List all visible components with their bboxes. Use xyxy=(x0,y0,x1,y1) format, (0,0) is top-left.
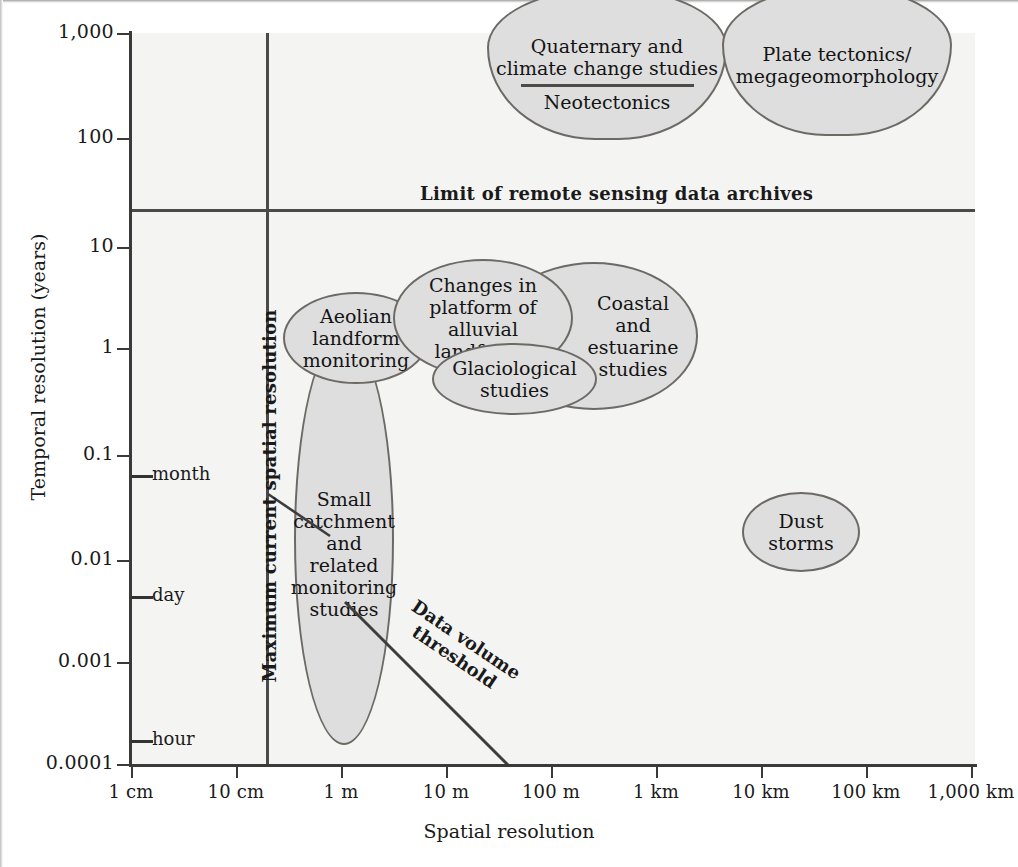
region-quaternary-divider xyxy=(521,84,694,86)
y-tick-6 xyxy=(117,662,130,664)
region-glaciological-label: Glaciological studies xyxy=(448,357,581,401)
x-tick-label-5: 1 km xyxy=(633,781,679,802)
y-tick-4 xyxy=(117,455,130,457)
scan-edge-left xyxy=(0,0,3,867)
y-axis-line xyxy=(129,31,132,767)
x-tick-1 xyxy=(236,765,238,778)
region-coastal-line2: and xyxy=(588,314,679,336)
x-tick-0 xyxy=(131,765,133,778)
region-dust-storms-line2: storms xyxy=(768,532,834,554)
region-dust-storms: Dust storms xyxy=(742,492,860,572)
x-tick-5 xyxy=(656,765,658,778)
region-aeolian-line3: monitoring xyxy=(303,349,409,371)
inner-tick-hour xyxy=(131,740,153,743)
region-alluvial-line1: Changes in xyxy=(399,274,567,296)
region-small-catchment-label: Small catchment and related monitoring s… xyxy=(287,488,401,620)
max-current-spatial-resolution-label: Maximum current spatial resolution xyxy=(259,313,280,683)
y-axis-title: Temporal resolution (years) xyxy=(27,207,49,527)
region-small-catchment-line4: monitoring xyxy=(291,576,397,598)
region-aeolian-line2: landform xyxy=(303,327,409,349)
inner-tick-month xyxy=(131,475,153,478)
region-coastal-line1: Coastal xyxy=(588,292,679,314)
inner-label-hour: hour xyxy=(152,728,195,749)
x-tick-label-3: 10 m xyxy=(423,781,470,802)
x-tick-label-0: 1 cm xyxy=(108,781,153,802)
x-tick-label-6: 10 km xyxy=(732,781,790,802)
region-quaternary-line2: climate change studies xyxy=(496,57,718,79)
inner-label-day: day xyxy=(152,584,184,605)
x-axis-line xyxy=(129,764,977,767)
y-tick-label-1: 100 xyxy=(14,125,114,147)
region-alluvial-line2: platform of xyxy=(399,296,567,318)
inner-tick-day xyxy=(131,596,153,599)
x-tick-7 xyxy=(866,765,868,778)
region-small-catchment-line5: studies xyxy=(291,598,397,620)
region-coastal-line4: studies xyxy=(588,358,679,380)
y-tick-3 xyxy=(117,348,130,350)
x-tick-label-4: 100 m xyxy=(522,781,580,802)
x-tick-4 xyxy=(551,765,553,778)
region-quaternary-line3: Neotectonics xyxy=(496,91,718,113)
region-dust-storms-line1: Dust xyxy=(768,510,834,532)
x-tick-label-8: 1,000 km xyxy=(928,781,1015,802)
region-dust-storms-label: Dust storms xyxy=(764,510,838,554)
x-tick-3 xyxy=(446,765,448,778)
limit-of-remote-sensing-archives-line xyxy=(131,209,975,212)
region-glaciological-studies: Glaciological studies xyxy=(432,343,597,415)
inner-label-month: month xyxy=(152,463,210,484)
y-tick-5 xyxy=(117,560,130,562)
x-tick-2 xyxy=(341,765,343,778)
region-glaciological-line1: Glaciological xyxy=(452,357,577,379)
x-tick-label-1: 10 cm xyxy=(208,781,265,802)
region-quaternary-line1: Quaternary and xyxy=(496,35,718,57)
region-plate-tectonics-line1: Plate tectonics/ xyxy=(736,43,938,65)
region-coastal-label: Coastal and estuarine studies xyxy=(584,292,683,380)
figure-canvas: Quaternary and climate change studies Ne… xyxy=(0,0,1018,867)
x-tick-label-2: 1 m xyxy=(324,781,359,802)
x-tick-8 xyxy=(971,765,973,778)
x-axis-title: Spatial resolution xyxy=(0,820,1018,842)
y-tick-label-7: 0.0001 xyxy=(14,751,114,773)
y-tick-label-6: 0.001 xyxy=(14,649,114,671)
x-tick-6 xyxy=(761,765,763,778)
y-tick-1 xyxy=(117,138,130,140)
y-tick-0 xyxy=(117,33,130,35)
region-small-catchment-monitoring: Small catchment and related monitoring s… xyxy=(294,333,394,745)
y-tick-7 xyxy=(117,764,130,766)
region-plate-tectonics-label: Plate tectonics/ megageomorphology xyxy=(732,43,942,87)
y-tick-2 xyxy=(117,247,130,249)
region-small-catchment-line1: Small xyxy=(291,488,397,510)
region-coastal-line3: estuarine xyxy=(588,336,679,358)
x-tick-label-7: 100 km xyxy=(831,781,900,802)
y-tick-label-0: 1,000 xyxy=(14,20,114,42)
region-plate-tectonics-line2: megageomorphology xyxy=(736,65,938,87)
region-glaciological-line2: studies xyxy=(452,379,577,401)
limit-of-remote-sensing-archives-label: Limit of remote sensing data archives xyxy=(420,183,813,204)
region-quaternary-label: Quaternary and climate change studies Ne… xyxy=(492,35,722,112)
y-tick-label-5: 0.01 xyxy=(14,547,114,569)
region-small-catchment-line3: and related xyxy=(291,532,397,576)
region-small-catchment-line2: catchment xyxy=(291,510,397,532)
